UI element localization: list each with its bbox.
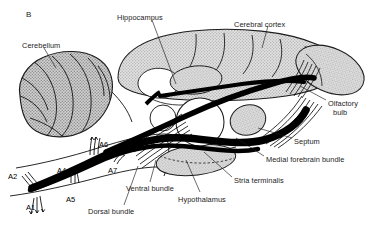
label-stria-terminalis: Stria terminalis	[234, 177, 284, 186]
label-hippocampus: Hippocampus	[117, 14, 163, 23]
label-medial-forebrain-bundle: Medial forebrain bundle	[266, 156, 344, 165]
panel-letter-b: B	[26, 10, 31, 19]
label-cell-group-a4: A4	[57, 166, 66, 175]
label-dorsal-bundle: Dorsal bundle	[88, 208, 134, 217]
label-cell-group-a1: A1	[26, 203, 35, 212]
cerebellum-shape	[19, 51, 112, 137]
label-cerebellum: Cerebellum	[22, 42, 60, 51]
label-cell-group-a5: A5	[66, 195, 75, 204]
label-cerebral-cortex: Cerebral cortex	[234, 21, 285, 30]
label-cell-group-a7: A7	[108, 166, 117, 175]
label-hypothalamus: Hypothalamus	[178, 196, 226, 205]
septum-shape	[226, 100, 270, 140]
figure-panel-b: B Cerebellum Hippocampus Cerebral cortex…	[0, 0, 382, 228]
label-septum: Septum	[294, 138, 320, 147]
brain-sagittal-diagram	[0, 0, 382, 228]
label-cell-group-a2: A2	[8, 172, 17, 181]
label-ventral-bundle: Ventral bundle	[126, 185, 174, 194]
label-cell-group-a6: A6	[99, 140, 108, 149]
label-olfactory-bulb-line2: bulb	[333, 109, 347, 118]
